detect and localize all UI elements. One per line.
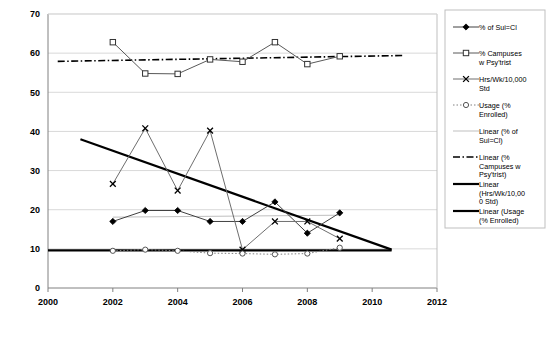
y-axis-tick-label-50: 50 <box>30 88 40 98</box>
legend-label-hrs-wk: Std <box>479 84 490 93</box>
line-chart: 0102030405060702000200220042006200820102… <box>0 0 551 338</box>
x-axis-tick-label-2000: 2000 <box>38 297 58 307</box>
legend-label-lin-hrs-wk: 0 Std) <box>479 197 498 206</box>
y-axis-tick-label-70: 70 <box>30 9 40 19</box>
y-axis-tick-label-0: 0 <box>35 283 40 293</box>
x-axis-tick-label-2012: 2012 <box>427 297 447 307</box>
x-axis-tick-label-2010: 2010 <box>362 297 382 307</box>
legend-label-lin-sui-cl: Sui=Cl) <box>479 136 503 145</box>
legend-label-lin-campuses: Psy'trist) <box>479 170 506 179</box>
legend-label-usage: Enrolled) <box>479 110 508 119</box>
data-series-of-sui-cl <box>110 199 343 237</box>
x-axis-tick-label-2002: 2002 <box>103 297 123 307</box>
y-axis-tick-label-60: 60 <box>30 48 40 58</box>
x-axis-tick-label-2004: 2004 <box>168 297 188 307</box>
trendline-linear-hrs-wk-10-000-std <box>80 139 391 249</box>
x-axis-tick-label-2006: 2006 <box>232 297 252 307</box>
x-axis-tick-label-2008: 2008 <box>297 297 317 307</box>
y-axis-tick-label-40: 40 <box>30 127 40 137</box>
legend-label-sui-cl: % of Sui=Cl <box>479 23 517 32</box>
trendline-linear-of-sui-cl <box>113 215 340 217</box>
legend-label-campuses: w Psy'trist <box>478 58 511 67</box>
chart-container: 0102030405060702000200220042006200820102… <box>0 0 551 338</box>
y-axis-tick-label-30: 30 <box>30 166 40 176</box>
y-axis-tick-label-20: 20 <box>30 205 40 215</box>
legend-label-lin-usage: (% Enrolled) <box>479 216 519 225</box>
y-axis-tick-label-10: 10 <box>30 244 40 254</box>
